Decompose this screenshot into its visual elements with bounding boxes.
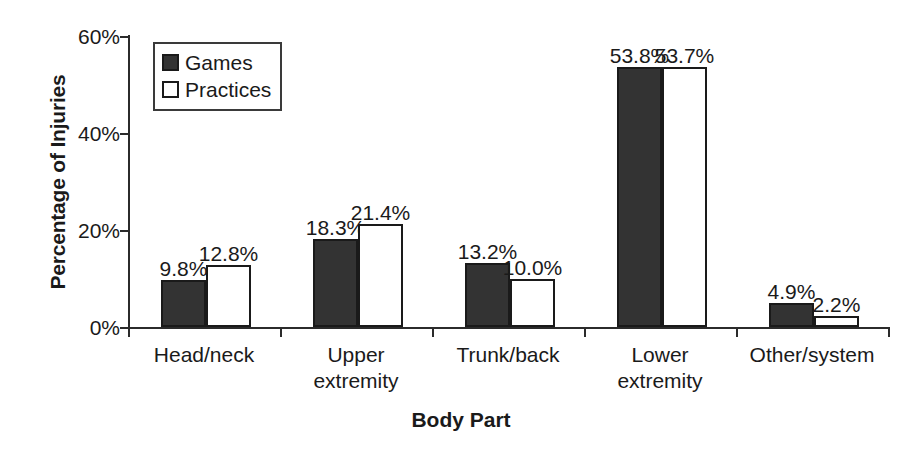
y-tick-label-40: 40% [56, 123, 120, 144]
x-tick-mark-2 [432, 327, 434, 337]
bar-group-other-system: 4.9% 2.2% [736, 35, 888, 327]
bar-chart: Percentage of Injuries 0% 20% 40% 60% 9.… [0, 0, 922, 467]
legend-item-practices[interactable]: Practices [162, 76, 271, 103]
x-category-label-trunk-back: Trunk/back [432, 342, 584, 368]
bar-games-upper-extremity[interactable]: 18.3% [313, 239, 358, 327]
bar-value-practices-trunk-back: 10.0% [503, 257, 563, 278]
legend-label-games: Games [185, 52, 253, 73]
bar-value-practices-other-system: 2.2% [813, 294, 861, 315]
y-tick-label-0: 0% [56, 317, 120, 338]
x-tick-mark-4 [736, 327, 738, 337]
legend-swatch-practices-icon [162, 81, 179, 98]
legend-item-games[interactable]: Games [162, 49, 271, 76]
x-tick-mark-5 [888, 327, 890, 337]
bar-practices-lower-extremity[interactable]: 53.7% [662, 67, 707, 327]
bar-group-trunk-back: 13.2% 10.0% [432, 35, 584, 327]
x-tick-mark-3 [584, 327, 586, 337]
bar-practices-other-system[interactable]: 2.2% [814, 316, 859, 327]
bar-practices-trunk-back[interactable]: 10.0% [510, 279, 555, 327]
bar-games-lower-extremity[interactable]: 53.8% [617, 67, 662, 327]
x-category-label-lower-extremity: Lower extremity [584, 342, 736, 394]
y-tick-label-20: 20% [56, 220, 120, 241]
bar-games-head-neck[interactable]: 9.8% [161, 280, 206, 327]
x-category-label-upper-extremity: Upper extremity [280, 342, 432, 394]
bar-group-upper-extremity: 18.3% 21.4% [280, 35, 432, 327]
bar-practices-head-neck[interactable]: 12.8% [206, 265, 251, 327]
legend: Games Practices [153, 42, 282, 111]
bar-games-other-system[interactable]: 4.9% [769, 303, 814, 327]
x-category-label-head-neck: Head/neck [128, 342, 280, 368]
legend-label-practices: Practices [185, 79, 271, 100]
bar-value-practices-upper-extremity: 21.4% [351, 202, 411, 223]
bar-value-practices-head-neck: 12.8% [199, 243, 259, 264]
y-tick-label-60: 60% [56, 26, 120, 47]
legend-swatch-games-icon [162, 54, 179, 71]
bar-value-games-other-system: 4.9% [768, 281, 816, 302]
bar-practices-upper-extremity[interactable]: 21.4% [358, 224, 403, 327]
x-category-label-other-system: Other/system [736, 342, 888, 368]
x-axis-line [128, 327, 890, 329]
x-tick-mark-0 [128, 327, 130, 337]
x-tick-mark-1 [280, 327, 282, 337]
x-axis-title: Body Part [0, 408, 922, 432]
bar-group-lower-extremity: 53.8% 53.7% [584, 35, 736, 327]
bar-value-practices-lower-extremity: 53.7% [655, 45, 715, 66]
y-axis-tick-labels: 0% 20% 40% 60% [48, 0, 120, 467]
